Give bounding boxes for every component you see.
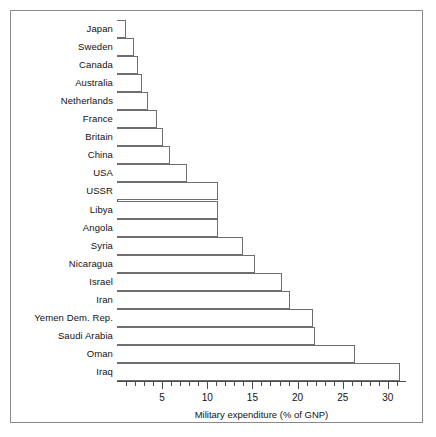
minor-tick — [379, 382, 380, 386]
tick-label: 15 — [232, 391, 272, 404]
value-axis-tick-labels: 51015202530 — [0, 391, 436, 405]
bar — [117, 291, 290, 309]
bar — [117, 92, 148, 110]
category-label: France — [3, 110, 113, 128]
tick-label: 30 — [368, 391, 408, 404]
bar — [117, 20, 126, 38]
tick-label: 10 — [187, 391, 227, 404]
major-tick — [388, 382, 389, 389]
minor-tick — [280, 382, 281, 386]
category-label: Oman — [3, 345, 113, 363]
minor-tick — [153, 382, 154, 386]
minor-tick — [397, 382, 398, 386]
category-label: Canada — [3, 56, 113, 74]
category-label: Yemen Dem. Rep. — [3, 309, 113, 327]
category-axis-labels: JapanSwedenCanadaAustraliaNetherlandsFra… — [1, 20, 113, 381]
bar — [117, 255, 255, 273]
bar — [117, 363, 400, 381]
bar — [117, 128, 163, 146]
category-label: Netherlands — [3, 92, 113, 110]
minor-tick — [216, 382, 217, 386]
minor-tick — [289, 382, 290, 386]
category-label: Libya — [3, 201, 113, 219]
bar — [117, 237, 243, 255]
minor-tick — [270, 382, 271, 386]
category-label: Saudi Arabia — [3, 327, 113, 345]
category-label: Angola — [3, 219, 113, 237]
minor-tick — [261, 382, 262, 386]
x-axis-title: Military expenditure (% of GNP) — [117, 409, 406, 421]
minor-tick — [126, 382, 127, 386]
bar — [117, 327, 315, 345]
bar — [117, 273, 282, 291]
minor-tick — [316, 382, 317, 386]
category-label: Israel — [3, 273, 113, 291]
tick-label: 20 — [278, 391, 318, 404]
chart-figure: JapanSwedenCanadaAustraliaNetherlandsFra… — [0, 0, 436, 437]
bar — [117, 182, 218, 200]
category-label: Syria — [3, 237, 113, 255]
category-label: Japan — [3, 20, 113, 38]
category-label: Nicaragua — [3, 255, 113, 273]
category-label: Iraq — [3, 363, 113, 381]
bar — [117, 345, 355, 363]
bar — [117, 309, 313, 327]
major-tick — [252, 382, 253, 389]
category-label: USSR — [3, 182, 113, 200]
bar — [117, 164, 187, 182]
minor-tick — [144, 382, 145, 386]
minor-tick — [370, 382, 371, 386]
bar — [117, 74, 142, 92]
category-label: Iran — [3, 291, 113, 309]
tick-label: 25 — [323, 391, 363, 404]
minor-tick — [180, 382, 181, 386]
minor-tick — [171, 382, 172, 386]
minor-tick — [325, 382, 326, 386]
category-label: Sweden — [3, 38, 113, 56]
minor-tick — [189, 382, 190, 386]
major-tick — [162, 382, 163, 389]
minor-tick — [243, 382, 244, 386]
category-label: Australia — [3, 74, 113, 92]
tick-label: 5 — [142, 391, 182, 404]
minor-tick — [198, 382, 199, 386]
bar — [117, 201, 218, 219]
minor-tick — [234, 382, 235, 386]
bar — [117, 219, 218, 237]
category-label: USA — [3, 164, 113, 182]
plot-area — [117, 20, 405, 381]
minor-tick — [307, 382, 308, 386]
minor-tick — [334, 382, 335, 386]
major-tick — [343, 382, 344, 389]
bar — [117, 56, 138, 74]
minor-tick — [135, 382, 136, 386]
category-label: China — [3, 146, 113, 164]
bar — [117, 146, 170, 164]
bar — [117, 38, 134, 56]
minor-tick — [225, 382, 226, 386]
value-axis-ticks — [117, 382, 409, 391]
minor-tick — [352, 382, 353, 386]
bar — [117, 110, 157, 128]
category-label: Britain — [3, 128, 113, 146]
major-tick — [298, 382, 299, 389]
major-tick — [207, 382, 208, 389]
minor-tick — [361, 382, 362, 386]
